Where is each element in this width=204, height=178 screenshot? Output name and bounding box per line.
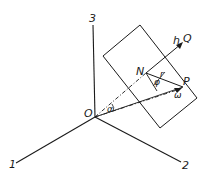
origin-label: O	[84, 107, 93, 120]
line-o-n	[95, 73, 146, 117]
axis-3-line	[93, 25, 95, 117]
alpha-label: α	[107, 104, 113, 114]
line-n-p	[146, 73, 183, 87]
axis-3-label: 3	[89, 12, 96, 25]
axis-1-label: 1	[9, 158, 16, 171]
r-label: r	[160, 69, 165, 79]
h-label: h	[173, 34, 180, 47]
point-q-label: Q	[183, 32, 192, 45]
point-p-label: P	[183, 75, 190, 88]
point-n-label: N	[136, 65, 144, 78]
omega-label: ω	[174, 90, 182, 100]
axis-2-line	[95, 117, 181, 162]
axis-2-label: 2	[182, 159, 189, 172]
diagram-canvas: 3 1 2 O N P Q h ω α φ r	[0, 0, 204, 178]
axis-1-line	[16, 117, 95, 163]
